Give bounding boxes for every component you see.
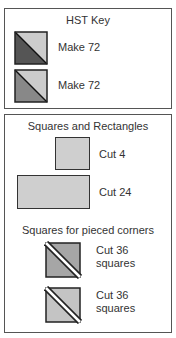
hst-item-2-label: Make 72 [58, 79, 100, 92]
hst-key-title: HST Key [5, 14, 171, 26]
pieced-corners-title: Squares for pieced corners [5, 224, 171, 236]
hst-item-1-label: Make 72 [58, 41, 100, 54]
squares-rectangles-title: Squares and Rectangles [5, 120, 171, 132]
corner-2-label-line1: Cut 36 [96, 289, 128, 302]
corner-2-label-line2: squares [96, 302, 135, 315]
rectangle-shape [17, 175, 90, 209]
pieced-corner-dark-icon [44, 241, 82, 279]
corner-1-label-line2: squares [96, 257, 135, 270]
hst-dark-light-icon [14, 31, 48, 65]
corner-1-label-line1: Cut 36 [96, 244, 128, 257]
hst-key-panel: HST Key Make 72 Make 72 [4, 8, 172, 109]
square-cut-label: Cut 4 [99, 148, 125, 161]
square-shape [55, 137, 90, 170]
rectangle-cut-label: Cut 24 [99, 186, 131, 199]
hst-medium-light-icon [14, 69, 48, 103]
squares-rectangles-panel: Squares and Rectangles Cut 4 Cut 24 Squa… [4, 114, 172, 333]
pieced-corner-light-icon [44, 286, 82, 324]
